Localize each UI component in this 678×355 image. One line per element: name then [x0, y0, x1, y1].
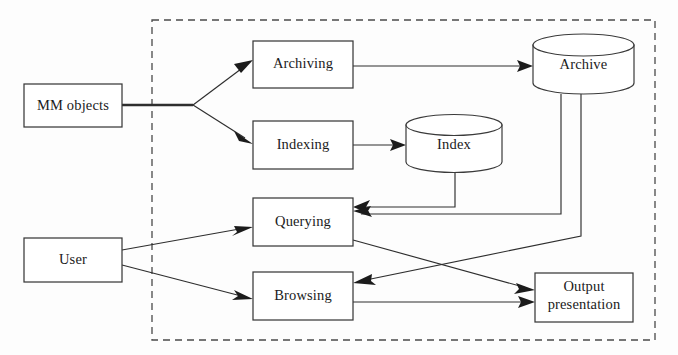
index-cylinder-top[interactable] — [406, 115, 502, 136]
node-archive[interactable]: Archive — [533, 34, 634, 94]
mm-objects-label: MM objects — [37, 97, 109, 113]
arrowhead — [234, 60, 253, 73]
arrowhead — [514, 283, 535, 294]
indexing-label: Indexing — [277, 136, 330, 152]
browsing-label: Browsing — [274, 287, 332, 303]
edge-user-to-querying — [122, 226, 253, 250]
archiving-label: Archiving — [273, 55, 333, 71]
arrowhead — [353, 274, 376, 285]
node-user[interactable]: User — [24, 238, 122, 282]
user-label: User — [59, 251, 87, 267]
node-mm-objects[interactable]: MM objects — [24, 84, 122, 127]
diagram-root: MM objects User Archiving Indexing Query… — [0, 0, 678, 355]
archive-cylinder-top[interactable] — [533, 34, 634, 56]
node-archiving[interactable]: Archiving — [253, 41, 353, 88]
node-index[interactable]: Index — [406, 115, 502, 173]
output-presentation-label-line2: presentation — [548, 296, 621, 312]
querying-label: Querying — [275, 213, 331, 229]
edge-querying-to-output — [353, 240, 535, 294]
edge-mm-to-archiving — [122, 60, 253, 105]
output-presentation-label-line1: Output — [563, 278, 604, 294]
edge-user-to-browsing — [122, 265, 253, 300]
node-output-presentation[interactable]: Output presentation — [535, 273, 633, 322]
diagram-canvas: MM objects User Archiving Indexing Query… — [0, 0, 678, 355]
node-indexing[interactable]: Indexing — [253, 121, 353, 169]
edge-mm-to-indexing — [193, 105, 253, 144]
index-label: Index — [437, 136, 471, 152]
edge-archiving-to-archive — [353, 60, 533, 72]
node-querying[interactable]: Querying — [253, 198, 353, 246]
arrowhead — [232, 226, 253, 236]
archive-label: Archive — [560, 56, 608, 72]
edge-indexing-to-index — [353, 139, 406, 151]
edge-browsing-to-output — [353, 296, 535, 308]
node-browsing[interactable]: Browsing — [253, 272, 353, 320]
